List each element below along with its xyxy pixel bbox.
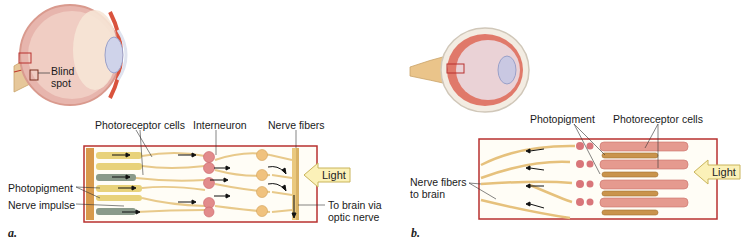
label-nerve-fibers-b-line2: to brain [410, 188, 445, 200]
label-blind-spot-line2: spot [51, 77, 71, 89]
label-light-a: Light [322, 169, 346, 181]
label-interneuron: Interneuron [193, 119, 247, 131]
label-to-brain-line2: optic nerve [328, 211, 379, 223]
label-photopigment-b: Photopigment [530, 113, 595, 125]
label-photopigment-a: Photopigment [8, 182, 73, 194]
retina-cross-section-a [84, 146, 317, 222]
label-photoreceptor-cells-b: Photoreceptor cells [613, 113, 703, 125]
panel-letter-a: a. [8, 226, 17, 241]
panel-letter-b: b. [411, 226, 420, 241]
label-light-b: Light [712, 166, 736, 178]
label-to-brain-line1: To brain via [328, 199, 382, 211]
label-nerve-fibers-b-line1: Nerve fibers [410, 176, 467, 188]
octopus-eye-illustration [410, 28, 529, 112]
human-eye-illustration [14, 5, 126, 105]
retina-cross-section-b [479, 139, 717, 219]
label-nerve-fibers-a: Nerve fibers [268, 119, 325, 131]
label-blind-spot-line1: Blind [51, 65, 74, 77]
label-nerve-impulse: Nerve impulse [8, 199, 75, 211]
label-photoreceptor-cells-a: Photoreceptor cells [95, 119, 185, 131]
